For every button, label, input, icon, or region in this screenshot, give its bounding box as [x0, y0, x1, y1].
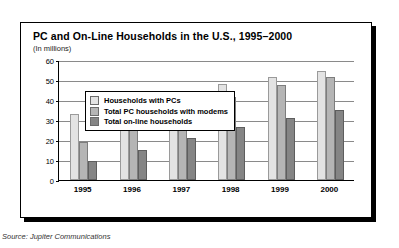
y-tick-mark: [56, 141, 59, 142]
bar: [335, 110, 344, 180]
bar: [138, 150, 147, 180]
y-tick-label: 40: [46, 97, 54, 106]
gridline: [59, 141, 354, 142]
bar: [79, 142, 88, 180]
bar: [286, 118, 295, 180]
bar: [268, 77, 277, 180]
x-tick-label: 1996: [123, 185, 141, 194]
bar: [187, 138, 196, 180]
y-tick-mark: [56, 101, 59, 102]
bar: [317, 71, 326, 180]
y-tick-mark: [56, 181, 59, 182]
y-tick-label: 0: [50, 177, 54, 186]
x-tick-label: 2000: [320, 185, 338, 194]
y-tick-label: 20: [46, 137, 54, 146]
bar: [88, 161, 97, 180]
bar: [236, 127, 245, 180]
y-tick-mark: [56, 121, 59, 122]
y-tick-mark: [56, 161, 59, 162]
y-axis: 0102030405060: [33, 61, 54, 181]
gridline: [59, 161, 354, 162]
plot-wrapper: 0102030405060 199519961997199819992000 H…: [33, 55, 361, 210]
chart-subtitle: (In millions): [33, 44, 71, 53]
legend-item: Total PC households with modems: [90, 106, 228, 116]
legend-item: Households with PCs: [90, 96, 228, 106]
legend-swatch-icon: [90, 117, 99, 126]
legend-label: Total on-line households: [104, 117, 192, 126]
y-tick-label: 60: [46, 57, 54, 66]
y-tick-label: 10: [46, 157, 54, 166]
bar: [326, 77, 335, 180]
chart-card: PC and On-Line Households in the U.S., 1…: [20, 22, 372, 218]
legend-item: Total on-line households: [90, 117, 228, 127]
bar: [129, 126, 138, 180]
legend-swatch-icon: [90, 96, 99, 105]
y-tick-mark: [56, 61, 59, 62]
legend-swatch-icon: [90, 107, 99, 116]
bar: [70, 114, 79, 180]
bar-group: [268, 61, 295, 180]
chart-legend: Households with PCsTotal PC households w…: [85, 91, 235, 131]
chart-title: PC and On-Line Households in the U.S., 1…: [33, 30, 292, 42]
x-tick-label: 1999: [271, 185, 289, 194]
x-tick-label: 1995: [74, 185, 92, 194]
bar: [277, 85, 286, 180]
source-note: Source: Jupiter Communications: [2, 232, 110, 241]
legend-label: Total PC households with modems: [104, 107, 228, 116]
x-tick-label: 1998: [222, 185, 240, 194]
y-tick-label: 50: [46, 77, 54, 86]
x-tick-label: 1997: [172, 185, 190, 194]
bar-group: [317, 61, 344, 180]
y-tick-mark: [56, 81, 59, 82]
gridline: [59, 61, 354, 62]
y-tick-label: 30: [46, 117, 54, 126]
legend-label: Households with PCs: [104, 96, 181, 105]
x-axis: 199519961997199819992000: [58, 183, 354, 199]
gridline: [59, 81, 354, 82]
